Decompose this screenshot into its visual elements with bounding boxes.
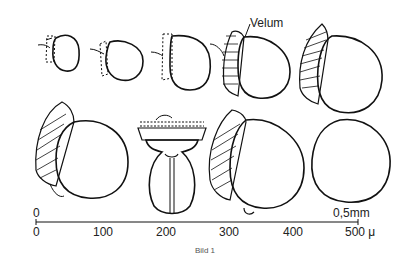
scale-tick: 0: [33, 225, 40, 239]
larva-stage-7: [138, 115, 206, 214]
larva-stage-5: [300, 24, 382, 113]
larva-stage-1: [38, 35, 79, 71]
scale-tick: 300: [219, 225, 239, 239]
larva-stage-9: [312, 120, 390, 203]
figure-caption: Bild 1: [195, 246, 215, 255]
larva-stage-2: [90, 41, 143, 80]
scale-tick: 400: [283, 225, 303, 239]
scale-tick: 200: [156, 225, 176, 239]
larva-stage-3: [151, 34, 210, 90]
larva-stage-4: [210, 24, 290, 98]
velum-label: Velum: [250, 16, 283, 30]
larva-stage-6: [36, 102, 128, 198]
scale-bar: [36, 219, 358, 225]
larva-stage-8: [209, 110, 304, 214]
scale-top-zero: 0: [33, 206, 40, 220]
scale-tick: 100: [93, 225, 113, 239]
scale-top-end: 0,5mm: [333, 206, 370, 220]
scale-tick: 500 μ: [345, 225, 375, 239]
